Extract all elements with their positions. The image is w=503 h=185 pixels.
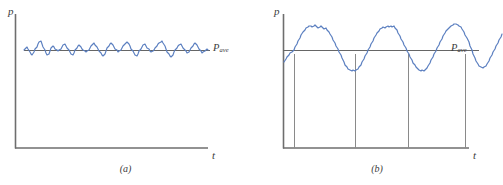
panel-b-y-axis-label: p [274, 6, 280, 17]
figure-root: p t Pave (a) p t Pave (b) [0, 0, 503, 185]
panel-b: p t Pave (b) [251, 0, 503, 185]
panel-b-average-label: Pave [451, 43, 467, 54]
panel-a-y-axis-label: p [8, 6, 14, 17]
panel-b-pressure-curve [284, 24, 502, 71]
panel-a-caption: (a) [0, 163, 251, 174]
panel-b-plot [251, 0, 503, 185]
panel-a: p t Pave (a) [0, 0, 251, 185]
panel-a-x-axis-label: t [212, 150, 215, 161]
panel-b-x-axis-label: t [473, 150, 476, 161]
panel-a-average-label: Pave [213, 43, 229, 54]
panel-a-pressure-curve [24, 41, 208, 57]
panel-b-average-label-sub: ave [457, 46, 466, 53]
panel-a-average-label-sub: ave [219, 46, 228, 53]
panel-b-caption: (b) [251, 163, 503, 174]
